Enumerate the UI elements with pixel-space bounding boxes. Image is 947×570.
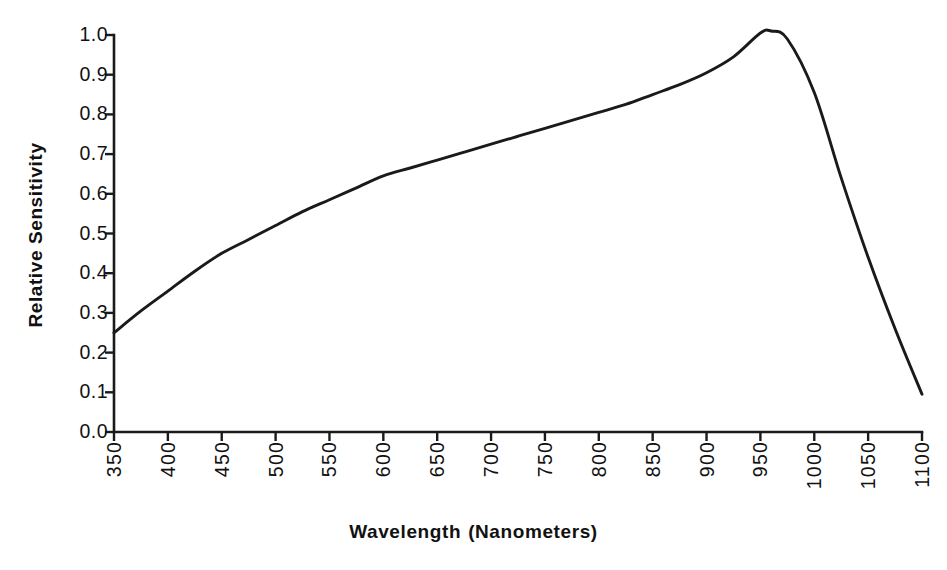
x-axis-tick-label: 1050: [858, 441, 878, 511]
x-axis-tick-label: 950: [750, 441, 770, 511]
x-axis-tick-label: 1000: [804, 441, 824, 511]
x-axis-tick-label: 500: [266, 441, 286, 511]
x-axis-tick-label: 800: [589, 441, 609, 511]
x-axis-tick-label: 350: [104, 441, 124, 511]
x-axis-tick-labels: 3504004505005506006507007508008509009501…: [0, 0, 947, 570]
x-axis-tick-label: 700: [481, 441, 501, 511]
x-axis-tick-label: 900: [697, 441, 717, 511]
chart-figure: Relative Sensitivity 1.00.90.80.70.60.50…: [0, 0, 947, 570]
x-axis-tick-label: 400: [158, 441, 178, 511]
x-axis-tick-label: 850: [643, 441, 663, 511]
x-axis-title-part2: (Nanometers): [468, 521, 598, 542]
x-axis-title: Wavelength(Nanometers): [0, 521, 947, 543]
x-axis-title-part1: Wavelength: [349, 521, 461, 542]
x-axis-tick-label: 600: [373, 441, 393, 511]
x-axis-tick-label: 450: [212, 441, 232, 511]
x-axis-tick-label: 1100: [912, 441, 932, 511]
x-axis-tick-label: 750: [535, 441, 555, 511]
x-axis-tick-label: 550: [319, 441, 339, 511]
x-axis-tick-label: 650: [427, 441, 447, 511]
